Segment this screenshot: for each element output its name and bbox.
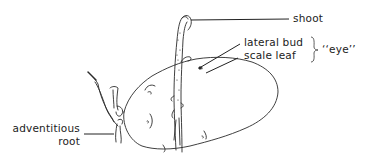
shoot-leader xyxy=(191,19,289,20)
scale-leaf-leader xyxy=(206,58,238,73)
tuber-outline xyxy=(124,57,278,149)
main-shoot xyxy=(174,16,191,150)
label-shoot: shoot xyxy=(293,12,323,24)
eye-mark-4 xyxy=(163,145,165,152)
eye-mark-1 xyxy=(145,85,155,94)
label-root: root xyxy=(0,135,80,147)
adventitious-root xyxy=(116,124,122,143)
label-eye: ‘‘eye’’ xyxy=(322,43,356,55)
lateral-bud-leader xyxy=(201,44,240,67)
eye-mark-3 xyxy=(202,131,206,139)
eye-mark-2 xyxy=(147,114,152,128)
potato-tuber-diagram: shoot lateral bud scale leaf ‘‘eye’’ adv… xyxy=(0,0,369,163)
label-scale-leaf: scale leaf xyxy=(244,49,296,61)
eye-brace xyxy=(311,37,318,62)
label-lateral-bud: lateral bud xyxy=(244,36,303,48)
label-adventitious: adventitious xyxy=(0,122,80,134)
